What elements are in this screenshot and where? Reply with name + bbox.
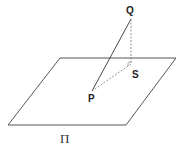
label-s: S: [132, 69, 139, 80]
plane-pi: [8, 58, 176, 125]
segment-pq: [92, 19, 131, 91]
label-q: Q: [126, 5, 134, 16]
label-plane-pi: Π: [60, 131, 69, 146]
plane-diagram: Q S P Π: [0, 0, 180, 154]
label-p: P: [88, 93, 95, 104]
segment-ps-projection: [92, 64, 131, 91]
